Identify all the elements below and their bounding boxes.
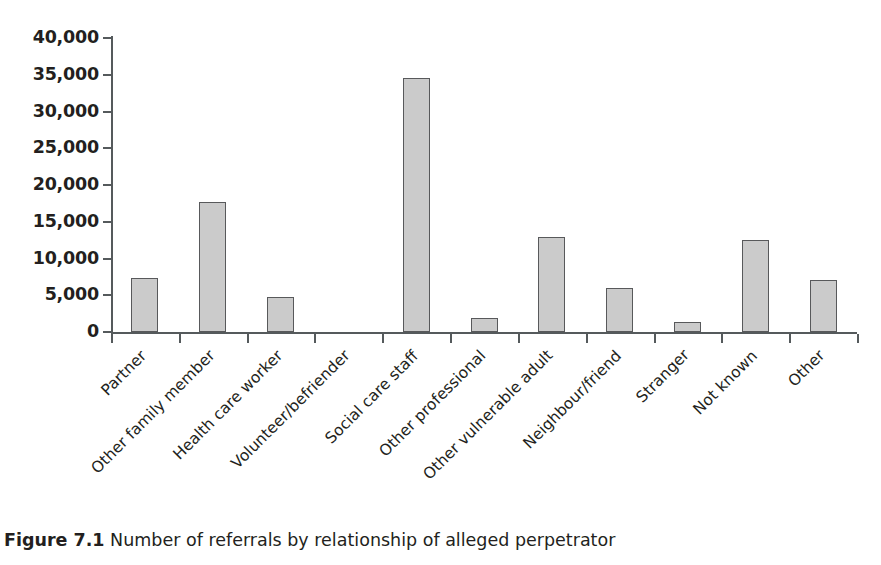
figure-container: 05,00010,00015,00020,00025,00030,00035,0… (0, 0, 881, 565)
x-axis-tick (721, 334, 723, 343)
y-axis-tick-label: 30,000 (13, 103, 99, 121)
x-axis-category-label: Not known (691, 348, 761, 418)
y-axis-tick-label: 20,000 (13, 176, 99, 194)
x-axis-tick (586, 334, 588, 343)
bar (471, 318, 498, 332)
figure-caption: Figure 7.1 Number of referrals by relati… (4, 531, 615, 550)
y-axis-tick (103, 184, 112, 186)
bar (810, 280, 837, 332)
bar (742, 240, 769, 332)
y-axis-tick-label: 35,000 (13, 66, 99, 84)
bar (403, 78, 430, 332)
y-axis-tick (103, 147, 112, 149)
bar (267, 297, 294, 332)
y-axis-tick (103, 37, 112, 39)
y-axis-tick (103, 111, 112, 113)
y-axis-tick (103, 294, 112, 296)
bar (131, 278, 158, 332)
x-axis-line (111, 332, 857, 334)
y-axis-tick (103, 221, 112, 223)
y-axis-tick-label: 40,000 (13, 29, 99, 47)
x-axis-category-label: Volunteer/befriender (229, 348, 353, 472)
y-axis-tick-label: 5,000 (13, 286, 99, 304)
x-axis-category-label: Stranger (634, 347, 693, 406)
x-axis-category-label: Other family member (89, 348, 218, 477)
bar (606, 288, 633, 332)
x-axis-category-label: Other (786, 348, 828, 390)
x-axis-tick (518, 334, 520, 343)
x-axis-tick (111, 334, 113, 343)
figure-number: Figure 7.1 (4, 530, 105, 550)
x-axis-tick (789, 334, 791, 343)
y-axis-tick-label: 15,000 (13, 213, 99, 231)
figure-caption-body: Number of referrals by relationship of a… (110, 530, 615, 550)
y-axis-tick-label: 25,000 (13, 139, 99, 157)
x-axis-tick (247, 334, 249, 343)
y-axis-tick-label: 10,000 (13, 250, 99, 268)
bar (199, 202, 226, 332)
x-axis-category-label: Partner (99, 348, 150, 399)
bar (674, 322, 701, 332)
x-axis-tick (857, 334, 859, 343)
x-axis-tick (450, 334, 452, 343)
x-axis-tick (382, 334, 384, 343)
y-axis-tick (103, 258, 112, 260)
y-axis-tick (103, 74, 112, 76)
x-axis-tick (654, 334, 656, 343)
bar (538, 237, 565, 332)
x-axis-tick (314, 334, 316, 343)
bar-chart: 05,00010,00015,00020,00025,00030,00035,0… (0, 0, 881, 500)
y-axis-labels: 05,00010,00015,00020,00025,00030,00035,0… (0, 0, 99, 340)
x-axis-category-label: Other vulnerable adult (421, 348, 556, 483)
y-axis-tick-label: 0 (13, 323, 99, 341)
x-axis-tick (179, 334, 181, 343)
